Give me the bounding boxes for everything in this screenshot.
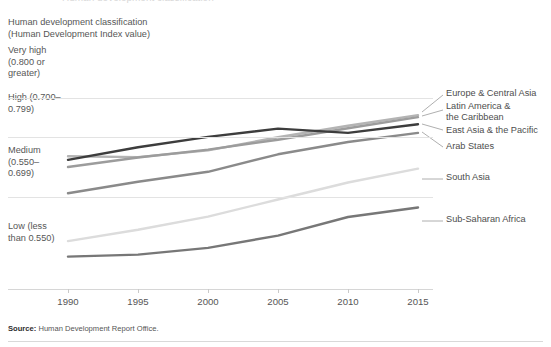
x-tick-label-1995: 1995 — [116, 296, 160, 307]
source-note: Source: Human Development Report Office. — [8, 324, 159, 333]
leader-line-east-asia-the-pacific — [422, 124, 443, 130]
x-tick-2015 — [418, 289, 419, 293]
series-label-south-asia: South Asia — [446, 172, 490, 183]
series-label-sub-saharan-africa: Sub-Saharan Africa — [446, 214, 526, 225]
x-tick-label-1990: 1990 — [46, 296, 90, 307]
series-line-arab-states — [68, 133, 418, 193]
x-tick-label-2000: 2000 — [186, 296, 230, 307]
x-tick-label-2015: 2015 — [396, 296, 440, 307]
series-label-arab-states: Arab States — [446, 141, 494, 152]
leader-line-arab-states — [422, 132, 443, 147]
series-line-east-asia-the-pacific — [68, 124, 418, 160]
series-lines — [0, 0, 551, 310]
gridline-threshold-0.8 — [8, 98, 433, 99]
x-tick-1990 — [68, 289, 69, 293]
x-axis-line — [8, 289, 433, 290]
leader-line-latin-america-the-caribbean — [422, 110, 443, 116]
x-tick-2005 — [278, 289, 279, 293]
x-tick-2000 — [208, 289, 209, 293]
series-label-europe-central-asia: Europe & Central Asia — [446, 88, 536, 99]
x-tick-label-2010: 2010 — [326, 296, 370, 307]
x-tick-1995 — [138, 289, 139, 293]
series-line-latin-america-the-caribbean — [68, 117, 418, 167]
series-line-south-asia — [68, 169, 418, 242]
footer-divider — [8, 341, 543, 342]
series-label-east-asia-the-pacific: East Asia & the Pacific — [446, 125, 538, 136]
gridline-threshold-0.55 — [8, 197, 433, 198]
plot-area — [0, 0, 551, 310]
x-tick-2010 — [348, 289, 349, 293]
source-text: Human Development Report Office. — [36, 324, 158, 333]
chart-figure: Human development classification Human d… — [0, 0, 551, 347]
series-label-latin-america-the-caribbean: Latin America & the Caribbean — [446, 101, 510, 124]
gridline-threshold-0.7 — [8, 137, 433, 138]
source-prefix: Source: — [8, 324, 36, 333]
x-tick-label-2005: 2005 — [256, 296, 300, 307]
